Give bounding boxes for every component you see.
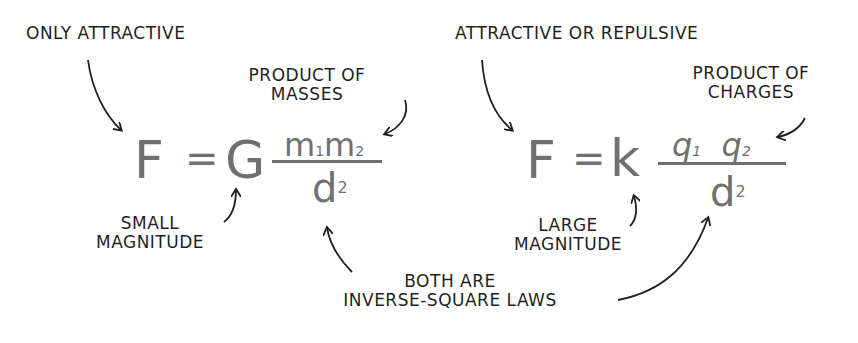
superscript-2: 2: [735, 182, 745, 201]
charge-q2: q: [722, 126, 742, 164]
label-line: MAGNITUDE: [493, 235, 643, 254]
equation-lhs-f-right: F: [526, 134, 556, 186]
label-product-of-charges: PRODUCT OF CHARGES: [676, 64, 826, 102]
label-line: MAGNITUDE: [80, 233, 220, 252]
label-line: BOTH ARE: [300, 272, 600, 291]
arrow-product-charges: [778, 118, 805, 137]
mass-m2: m: [324, 126, 355, 164]
label-line: INVERSE-SQUARE LAWS: [300, 291, 600, 310]
arrow-only-attractive: [88, 60, 121, 130]
denominator-d-squared-left: d2: [312, 168, 348, 208]
arrow-both-left: [327, 228, 352, 272]
label-line: CHARGES: [676, 83, 826, 102]
fraction-bar-right: [658, 162, 786, 165]
subscript-1: 1: [315, 143, 324, 159]
distance-d: d: [710, 169, 735, 215]
label-small-magnitude: SMALL MAGNITUDE: [80, 214, 220, 252]
label-large-magnitude: LARGE MAGNITUDE: [493, 216, 643, 254]
label-product-of-masses: PRODUCT OF MASSES: [232, 66, 382, 104]
subscript-1: 1: [692, 143, 701, 159]
denominator-d-squared-right: d2: [710, 172, 746, 212]
distance-d: d: [312, 165, 337, 211]
coulomb-constant-k: k: [610, 132, 640, 184]
label-inverse-square-laws: BOTH ARE INVERSE-SQUARE LAWS: [300, 272, 600, 310]
label-line: PRODUCT OF: [232, 66, 382, 85]
label-line: PRODUCT OF: [676, 64, 826, 83]
label-line: SMALL: [80, 214, 220, 233]
subscript-2: 2: [742, 143, 751, 159]
charge-q1: q: [672, 126, 692, 164]
gravitational-constant-g: G: [225, 134, 265, 186]
arrow-attractive-repulsive: [482, 60, 512, 130]
equation-lhs-f: F: [134, 134, 164, 186]
arrow-product-masses: [385, 100, 406, 134]
fraction-bar-left: [272, 160, 382, 163]
arrow-small-magnitude: [224, 190, 236, 222]
subscript-2: 2: [355, 143, 364, 159]
label-line: MASSES: [232, 85, 382, 104]
label-line: LARGE: [493, 216, 643, 235]
superscript-2: 2: [337, 178, 347, 197]
equals-sign-right: =: [572, 132, 606, 184]
label-only-attractive: ONLY ATTRACTIVE: [26, 24, 185, 43]
label-attractive-or-repulsive: ATTRACTIVE OR REPULSIVE: [455, 24, 698, 43]
equals-sign: =: [185, 132, 219, 184]
mass-m1: m: [284, 126, 315, 164]
